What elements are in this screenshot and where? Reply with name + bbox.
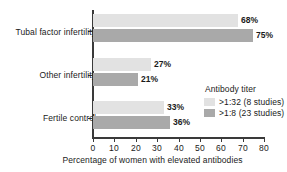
x-axis-title: Percentage of women with elevated antibo…: [44, 155, 242, 165]
bar-value-tubal-factor-infertility-titer-1-32: 68%: [241, 14, 258, 27]
x-tick-60: [221, 138, 222, 142]
x-axis-title-wrap: Percentage of women with elevated antibo…: [0, 155, 287, 165]
x-tick-20: [136, 138, 137, 142]
legend-title: Antibody titer: [205, 84, 287, 94]
bar-value-other-infertility-titer-1-8: 21%: [141, 73, 158, 86]
legend-label-titer-1-32: >1:32 (8 studies): [219, 97, 284, 107]
x-tick-label-70: 70: [238, 143, 248, 153]
legend: Antibody titer >1:32 (8 studies) >1:8 (2…: [204, 84, 287, 119]
bar-tubal-factor-infertility-titer-1-8: [93, 29, 253, 42]
bar-fertile-control-titer-1-32: [93, 101, 164, 114]
bar-other-infertility-titer-1-8: [93, 73, 138, 86]
x-tick-80: [264, 138, 265, 142]
x-tick-label-30: 30: [152, 143, 162, 153]
x-tick-label-80: 80: [259, 143, 269, 153]
x-tick-label-60: 60: [216, 143, 226, 153]
category-label-other-infertility: Other infertility: [40, 70, 97, 80]
legend-swatch-light-icon: [204, 98, 215, 106]
bar-value-other-infertility-titer-1-32: 27%: [154, 58, 171, 71]
x-tick-label-0: 0: [91, 143, 96, 153]
x-tick-40: [179, 138, 180, 142]
category-label-tubal-factor-infertility: Tubal factor infertility: [15, 27, 96, 37]
x-tick-30: [157, 138, 158, 142]
bar-fertile-control-titer-1-8: [93, 116, 170, 129]
bar-other-infertility-titer-1-32: [93, 58, 151, 71]
x-tick-10: [114, 138, 115, 142]
bar-value-fertile-control-titer-1-8: 36%: [173, 116, 190, 129]
x-tick-label-20: 20: [131, 143, 141, 153]
x-tick-label-50: 50: [195, 143, 205, 153]
legend-swatch-dark-icon: [204, 109, 215, 117]
x-tick-70: [243, 138, 244, 142]
x-tick-50: [200, 138, 201, 142]
legend-label-titer-1-8: >1:8 (23 studies): [219, 108, 284, 118]
x-tick-label-40: 40: [174, 143, 184, 153]
bar-tubal-factor-infertility-titer-1-32: [93, 14, 238, 27]
legend-item-titer-1-32: >1:32 (8 studies): [204, 97, 287, 107]
legend-item-titer-1-8: >1:8 (23 studies): [204, 108, 287, 118]
x-tick-label-10: 10: [109, 143, 119, 153]
category-label-fertile-control: Fertile control: [43, 113, 96, 123]
bar-value-tubal-factor-infertility-titer-1-8: 75%: [256, 29, 273, 42]
x-tick-0: [93, 138, 94, 142]
bar-chart: 0 10 20 30 40 50 60 70 80 Tubal factor i…: [0, 0, 287, 172]
bar-value-fertile-control-titer-1-32: 33%: [167, 101, 184, 114]
